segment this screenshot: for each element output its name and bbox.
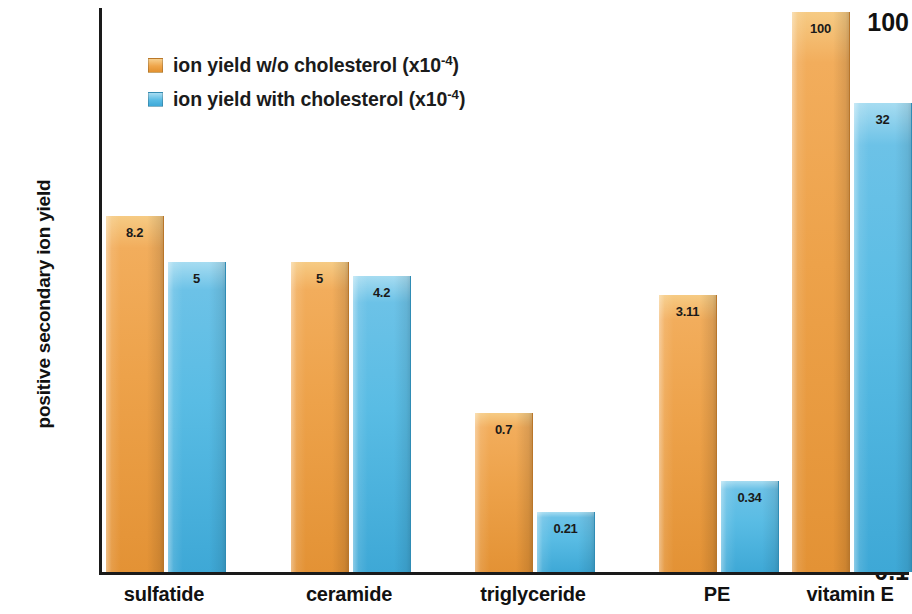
x-tick-label-vitamin-e: vitamin E xyxy=(788,583,912,606)
bar-value-label: 0.7 xyxy=(475,422,532,437)
bar-ceramide-with-cholesterol: 4.2 xyxy=(353,276,411,572)
y-axis-title: positive secondary ion yield xyxy=(33,154,55,454)
bar-value-label: 0.21 xyxy=(537,521,594,536)
bar-value-label: 32 xyxy=(854,112,911,127)
x-tick-label-triglyceride: triglyceride xyxy=(471,583,595,606)
bar-vitamine-with-cholesterol: 32 xyxy=(854,103,912,572)
bar-value-label: 8.2 xyxy=(106,225,163,240)
bar-vitamine-without-cholesterol: 100 xyxy=(792,12,850,572)
x-axis-line xyxy=(99,572,909,575)
bar-ceramide-without-cholesterol: 5 xyxy=(291,262,349,572)
x-tick-label-pe: PE xyxy=(655,583,779,606)
bar-sulfatide-without-cholesterol: 8.2 xyxy=(106,216,164,572)
bar-value-label: 100 xyxy=(792,21,849,36)
plot-area: 8.2 5 5 4.2 0.7 0.21 3.11 0.34 100 xyxy=(102,0,909,572)
x-tick-label-sulfatide: sulfatide xyxy=(102,583,226,606)
bar-pe-with-cholesterol: 0.34 xyxy=(721,481,779,572)
bar-value-label: 3.11 xyxy=(659,304,716,319)
bar-triglyceride-with-cholesterol: 0.21 xyxy=(537,512,595,572)
bar-triglyceride-without-cholesterol: 0.7 xyxy=(475,413,533,572)
x-tick-label-ceramide: ceramide xyxy=(287,583,411,606)
bar-value-label: 0.34 xyxy=(721,490,778,505)
bar-pe-without-cholesterol: 3.11 xyxy=(659,295,717,572)
bar-value-label: 5 xyxy=(291,271,348,286)
bar-value-label: 4.2 xyxy=(353,285,410,300)
bar-sulfatide-with-cholesterol: 5 xyxy=(168,262,226,572)
bar-value-label: 5 xyxy=(168,271,225,286)
